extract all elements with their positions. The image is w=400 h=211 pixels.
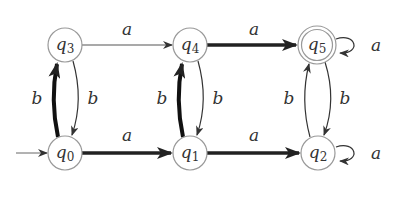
edge-q0-q3 (54, 64, 58, 137)
label-q0-q1: a (122, 125, 132, 145)
node-q0-initial: q0 (48, 136, 82, 170)
node-q1: q1 (173, 136, 207, 170)
edge-q1-q4 (179, 64, 183, 137)
edge-q5-self-loop (336, 38, 354, 53)
edge-q3-q0 (72, 61, 78, 135)
label-q3-q4: a (122, 19, 132, 39)
label-q1-q2: a (249, 125, 259, 145)
label-q0-q3: b (32, 88, 43, 108)
edge-q2-self-loop (336, 146, 354, 161)
node-q3: q3 (48, 28, 82, 62)
label-q2-loop: a (371, 143, 381, 163)
label-q2-q5: b (284, 88, 295, 108)
label-q1-q4: b (157, 88, 168, 108)
label-q4-q5: a (249, 19, 259, 39)
label-q5-q2: b (340, 88, 351, 108)
label-q3-q0: b (88, 88, 99, 108)
edge-q2-q5 (305, 64, 310, 137)
node-q2: q2 (301, 136, 335, 170)
label-q5-loop: a (371, 35, 381, 55)
automaton-diagram: q3 q4 q5 q0 q1 q2 a a a a a a b b b b b … (0, 0, 400, 211)
node-q4: q4 (173, 28, 207, 62)
node-q5-accepting: q5 (298, 26, 336, 64)
edge-q5-q2 (324, 62, 331, 135)
label-q4-q1: b (213, 88, 224, 108)
edge-q4-q1 (197, 61, 203, 135)
